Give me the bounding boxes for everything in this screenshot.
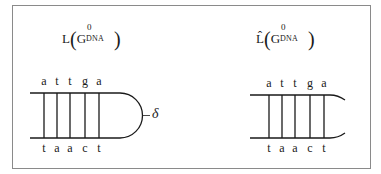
superscript: 0 — [87, 22, 92, 32]
base-label: a — [279, 141, 284, 156]
base-label: t — [280, 76, 283, 91]
right-top-strand-line — [250, 95, 345, 100]
base-label: t — [322, 141, 325, 156]
base-label: c — [307, 141, 312, 156]
delta-label: δ — [152, 106, 159, 122]
close-paren: ) — [114, 28, 121, 50]
close-paren: ) — [308, 28, 315, 50]
subscript: DNA — [280, 34, 298, 43]
left-title: L(G0DNA) — [62, 28, 121, 51]
base-label: t — [68, 74, 71, 89]
open-paren: ( — [70, 28, 77, 50]
base-symbol: G — [77, 31, 86, 46]
base-label: t — [293, 76, 296, 91]
base-label: t — [267, 141, 270, 156]
left-hairpin-loop — [120, 93, 143, 138]
base-label: t — [42, 141, 45, 156]
right-bottom-strand-line — [250, 133, 345, 138]
base-label: a — [266, 76, 271, 91]
base-label: a — [54, 141, 59, 156]
base-symbol: G — [271, 31, 280, 46]
left-hairpin — [30, 93, 150, 138]
base-label: t — [97, 141, 100, 156]
open-paren: ( — [264, 28, 271, 50]
base-label: c — [82, 141, 87, 156]
right-duplex — [250, 95, 345, 138]
right-title: L̂(G0DNA) — [256, 28, 315, 51]
base-label: a — [292, 141, 297, 156]
operator-label: L̂ — [256, 31, 264, 46]
base-label: t — [55, 74, 58, 89]
subscript: DNA — [86, 34, 104, 43]
base-label: a — [321, 76, 326, 91]
base-label: a — [41, 74, 46, 89]
superscript: 0 — [281, 22, 286, 32]
base-label: a — [96, 74, 101, 89]
base-label: a — [67, 141, 72, 156]
base-label: g — [82, 74, 88, 89]
base-label: g — [307, 76, 313, 91]
operator-label: L — [62, 31, 70, 46]
